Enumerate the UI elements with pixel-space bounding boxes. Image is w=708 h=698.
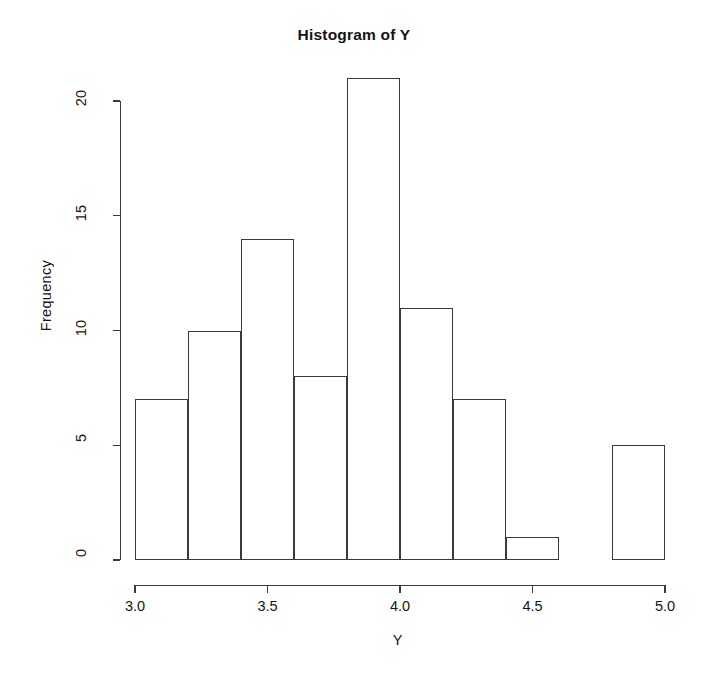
x-tick-label: 4.0 [372, 598, 428, 614]
y-tick-label: 5 [74, 434, 104, 442]
x-axis-title: Y [120, 632, 675, 648]
histogram-figure: Histogram of Y Frequency 05101520 3.03.5… [0, 0, 708, 698]
histogram-bar [612, 445, 665, 560]
y-tick-label: 10 [74, 320, 104, 336]
plot-area: Frequency 05101520 3.03.54.04.55.0 Y [120, 70, 675, 565]
histogram-bar [453, 399, 506, 560]
histogram-bar [347, 78, 400, 560]
y-tick-label: 0 [74, 549, 104, 557]
x-tick-label: 3.0 [107, 598, 163, 614]
y-tick [113, 330, 120, 331]
chart-title: Histogram of Y [0, 26, 708, 44]
histogram-bar [188, 331, 241, 561]
y-axis-line [120, 101, 121, 560]
x-tick [267, 585, 268, 593]
histogram-bar [506, 537, 559, 560]
y-tick-label: 20 [74, 90, 104, 106]
y-tick [113, 215, 120, 216]
x-tick-label: 4.5 [505, 598, 561, 614]
y-axis-title: Frequency [38, 260, 54, 331]
x-tick [134, 585, 135, 593]
y-tick [113, 100, 120, 101]
y-tick [113, 445, 120, 446]
histogram-bar [241, 239, 294, 560]
x-tick-label: 5.0 [637, 598, 693, 614]
histogram-bar [400, 308, 453, 560]
histogram-bar [294, 376, 347, 560]
y-tick-label: 15 [74, 205, 104, 221]
x-tick [399, 585, 400, 593]
y-tick [113, 559, 120, 560]
histogram-bar [135, 399, 188, 560]
x-tick [532, 585, 533, 593]
x-tick-label: 3.5 [240, 598, 296, 614]
x-tick [664, 585, 665, 593]
